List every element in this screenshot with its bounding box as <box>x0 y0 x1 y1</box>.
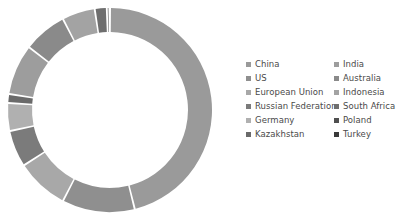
legend-swatch-icon <box>246 104 251 109</box>
legend-item-label: Russian Federation <box>255 99 337 113</box>
donut-chart-svg <box>0 0 222 222</box>
donut-slice[interactable] <box>111 8 212 209</box>
chart-legend: China US European Union Russian Federati… <box>246 57 398 141</box>
legend-item-label: European Union <box>255 85 323 99</box>
legend-item-label: China <box>255 57 280 71</box>
legend-column-right: India Australia Indonesia South Africa P… <box>334 57 398 141</box>
legend-item-label: India <box>343 57 364 71</box>
legend-item-australia[interactable]: Australia <box>334 71 398 85</box>
donut-chart-figure: China US European Union Russian Federati… <box>0 0 401 222</box>
legend-item-china[interactable]: China <box>246 57 326 71</box>
legend-item-indonesia[interactable]: Indonesia <box>334 85 398 99</box>
donut-slice[interactable] <box>96 8 107 33</box>
legend-item-russian-federation[interactable]: Russian Federation <box>246 99 326 113</box>
legend-item-european-union[interactable]: European Union <box>246 85 326 99</box>
legend-swatch-icon <box>246 76 251 81</box>
legend-item-south-africa[interactable]: South Africa <box>334 99 398 113</box>
donut-slice[interactable] <box>64 180 134 212</box>
donut-slice[interactable] <box>8 104 34 130</box>
legend-item-label: US <box>255 71 267 85</box>
legend-item-us[interactable]: US <box>246 71 326 85</box>
legend-item-turkey[interactable]: Turkey <box>334 127 398 141</box>
legend-swatch-icon <box>334 132 339 137</box>
legend-swatch-icon <box>246 118 251 123</box>
legend-item-germany[interactable]: Germany <box>246 113 326 127</box>
legend-item-label: Turkey <box>343 127 371 141</box>
legend-item-label: Poland <box>343 113 372 127</box>
legend-item-label: Australia <box>343 71 381 85</box>
legend-swatch-icon <box>334 76 339 81</box>
legend-swatch-icon <box>246 90 251 95</box>
legend-item-india[interactable]: India <box>334 57 398 71</box>
legend-swatch-icon <box>334 104 339 109</box>
legend-column-left: China US European Union Russian Federati… <box>246 57 326 141</box>
legend-item-label: South Africa <box>343 99 395 113</box>
legend-item-kazakhstan[interactable]: Kazakhstan <box>246 127 326 141</box>
legend-swatch-icon <box>246 132 251 137</box>
legend-swatch-icon <box>334 90 339 95</box>
donut-slice[interactable] <box>25 153 74 200</box>
legend-swatch-icon <box>246 62 251 67</box>
legend-swatch-icon <box>334 62 339 67</box>
donut-slice-group <box>8 8 212 212</box>
donut-chart-plot-area <box>0 0 222 222</box>
legend-item-label: Kazakhstan <box>255 127 304 141</box>
legend-item-poland[interactable]: Poland <box>334 113 398 127</box>
legend-swatch-icon <box>334 118 339 123</box>
legend-item-label: Indonesia <box>343 85 385 99</box>
legend-item-label: Germany <box>255 113 294 127</box>
donut-slice[interactable] <box>108 8 109 32</box>
